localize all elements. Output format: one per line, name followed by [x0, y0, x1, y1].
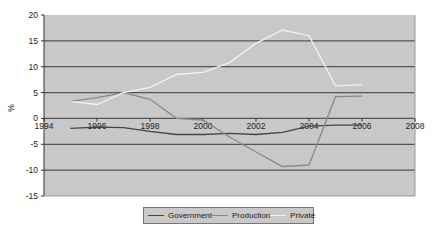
x-tick-label: 2006 [353, 121, 372, 131]
y-tick-label: -5 [30, 139, 38, 149]
legend-label: Government [168, 211, 212, 220]
x-tick-label: 2000 [194, 121, 213, 131]
y-tick-label: 20 [29, 10, 39, 20]
legend-label: Production [232, 211, 270, 220]
legend-swatch-production [212, 215, 228, 216]
legend-item-production: Production [212, 211, 270, 220]
y-axis-label: % [6, 104, 16, 112]
legend-swatch-private [270, 215, 286, 216]
legend-swatch-government [148, 215, 164, 216]
legend-item-government: Government [148, 211, 212, 220]
y-tick-label: 15 [29, 36, 39, 46]
line-chart: 20151050-5-10-15 19941996199820002002200… [0, 0, 436, 238]
plot-area [44, 15, 415, 196]
y-tick-label: -10 [26, 165, 39, 175]
legend-item-private: Private [270, 211, 315, 220]
x-tick-label: 2008 [406, 121, 425, 131]
legend-label: Private [290, 211, 315, 220]
x-tick-label: 2002 [247, 121, 266, 131]
x-tick-label: 1994 [35, 121, 54, 131]
legend: Government Production Private [143, 207, 314, 224]
y-tick-label: -15 [26, 191, 39, 201]
x-tick-label: 1996 [88, 121, 107, 131]
y-tick-label: 10 [29, 62, 39, 72]
y-tick-label: 5 [33, 88, 38, 98]
